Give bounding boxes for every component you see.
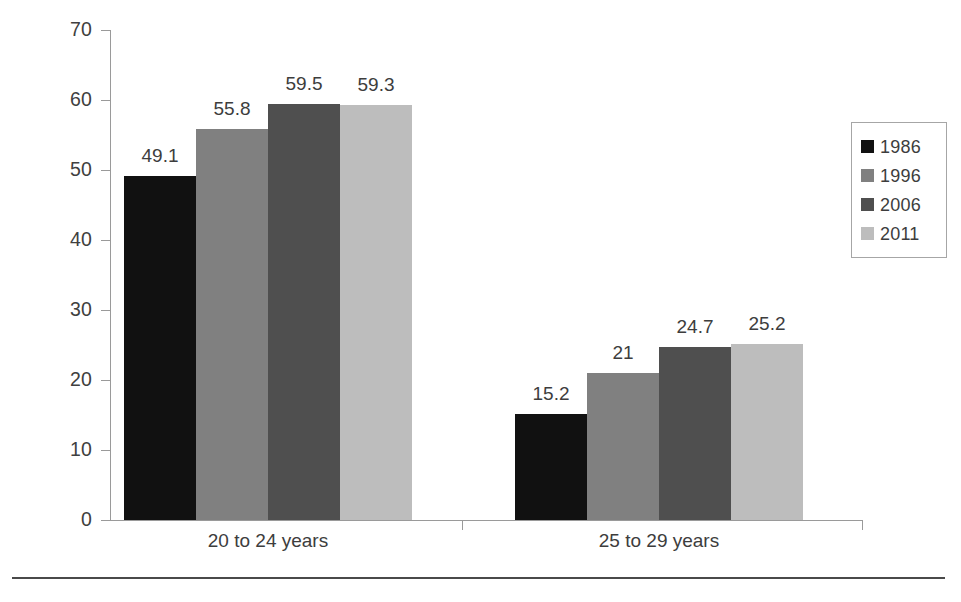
y-axis-tick-label-wrap: 20 [20, 370, 92, 390]
x-axis-tick [462, 520, 463, 530]
legend-swatch-icon [861, 227, 874, 240]
bar [587, 373, 659, 520]
legend-swatch-icon [861, 198, 874, 211]
y-axis-tick [101, 380, 110, 381]
y-axis-tick-label-wrap: 60 [20, 90, 92, 110]
bar-value-label: 24.7 [659, 317, 731, 336]
bar-value-label: 59.5 [268, 74, 340, 93]
y-axis-tick-label: 20 [26, 370, 92, 390]
bar-value-label: 15.2 [515, 384, 587, 403]
y-axis-tick-label-wrap: 10 [20, 440, 92, 460]
y-axis-tick-label: 50 [26, 160, 92, 180]
y-axis-tick-label: 30 [26, 300, 92, 320]
y-axis-tick-label: 40 [26, 230, 92, 250]
legend-swatch-icon [861, 140, 874, 153]
y-axis-tick-label: 10 [26, 440, 92, 460]
y-axis-tick-label-wrap: 50 [20, 160, 92, 180]
y-axis-tick [101, 520, 110, 521]
bar [659, 347, 731, 520]
y-axis-tick-label: 70 [26, 20, 92, 40]
y-axis-line [110, 30, 111, 521]
y-axis-tick [101, 450, 110, 451]
x-axis-category-label: 25 to 29 years [539, 529, 779, 553]
x-axis-category-label: 20 to 24 years [148, 529, 388, 553]
x-axis-tick [862, 520, 863, 530]
y-axis-tick-label-wrap: 0 [20, 510, 92, 530]
y-axis-tick-label-wrap: 40 [20, 230, 92, 250]
legend-swatch-icon [861, 169, 874, 182]
bottom-divider-rule [12, 577, 945, 579]
x-axis-line [110, 520, 863, 521]
bar [731, 344, 803, 520]
legend-item[interactable]: 2006 [861, 190, 940, 219]
y-axis-tick-label-wrap: 30 [20, 300, 92, 320]
legend-item-label: 2006 [880, 196, 921, 214]
y-axis-tick-label: 0 [26, 510, 92, 530]
y-axis-tick [101, 240, 110, 241]
bar-value-label: 21 [587, 343, 659, 362]
legend-item[interactable]: 1996 [861, 161, 940, 190]
bar-value-label: 59.3 [340, 75, 412, 94]
y-axis-tick-label: 60 [26, 90, 92, 110]
legend-item[interactable]: 2011 [861, 219, 940, 248]
legend-item-label: 2011 [880, 225, 920, 243]
bar-value-label: 55.8 [196, 99, 268, 118]
legend-item-label: 1996 [880, 167, 921, 185]
chart-legend: 1986199620062011 [851, 122, 947, 258]
bar-value-label: 49.1 [124, 146, 196, 165]
y-axis-tick [101, 170, 110, 171]
bar [196, 129, 268, 520]
y-axis-tick [101, 30, 110, 31]
bar-chart: 706050403020100 20 to 24 years25 to 29 y… [0, 0, 961, 602]
bar [124, 176, 196, 520]
bar [340, 105, 412, 520]
y-axis-tick-label-wrap: 70 [20, 20, 92, 40]
plot-area: 706050403020100 20 to 24 years25 to 29 y… [0, 0, 961, 602]
y-axis-tick [101, 310, 110, 311]
bar [515, 414, 587, 520]
legend-item-label: 1986 [880, 138, 921, 156]
bar [268, 104, 340, 521]
y-axis-tick [101, 100, 110, 101]
bar-value-label: 25.2 [731, 314, 803, 333]
legend-item[interactable]: 1986 [861, 132, 940, 161]
